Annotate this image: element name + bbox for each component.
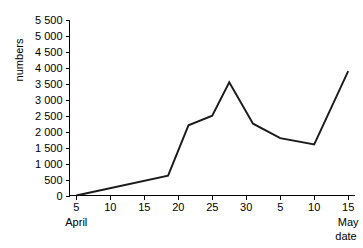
x-tick-label: 10 [308,201,320,213]
x-tick-label: 15 [342,201,354,213]
y-axis-title: numbers [13,38,25,81]
x-tick-label: 25 [206,201,218,213]
x-axis-period-label: April [65,216,87,228]
x-tick-label: 30 [240,201,252,213]
x-tick-label: 5 [277,201,283,213]
y-tick-label: 1 500 [35,142,63,154]
x-axis-period-label: May [338,216,359,228]
y-tick-label: 3 500 [35,78,63,90]
chart-container: 05001 0001 5002 0002 5003 0003 5004 0004… [0,0,363,248]
y-tick-label: 4 500 [35,46,63,58]
x-tick-label: 20 [172,201,184,213]
y-tick-label: 2 500 [35,110,63,122]
x-axis-title: date [335,230,356,242]
y-tick-label: 1 000 [35,158,63,170]
x-tick-label: 5 [73,201,79,213]
x-axis-tick-labels: 5101520253051015 [73,201,354,213]
y-tick-label: 2 000 [35,126,63,138]
line-chart: 05001 0001 5002 0002 5003 0003 5004 0004… [0,0,363,248]
y-tick-label: 5 000 [35,30,63,42]
y-tick-label: 3 000 [35,94,63,106]
x-tick-label: 10 [104,201,116,213]
y-tick-label: 500 [44,174,62,186]
y-tick-label: 5 500 [35,14,63,26]
y-tick-label: 0 [56,190,62,202]
x-tick-label: 15 [138,201,150,213]
y-tick-label: 4 000 [35,62,63,74]
